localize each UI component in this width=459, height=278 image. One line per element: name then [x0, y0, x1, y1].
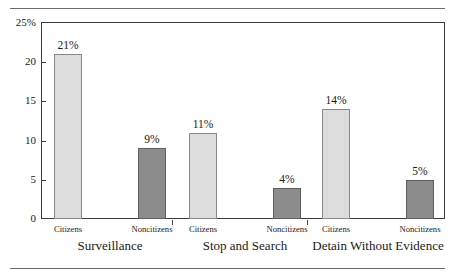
x-sub-label-citizens: Citizens: [163, 224, 243, 234]
y-tick-label: 0: [2, 213, 36, 224]
top-divider-rule: [10, 8, 445, 9]
x-group-separator-tick: [307, 220, 308, 225]
x-group-separator-tick: [172, 220, 173, 225]
y-tick-label: 20: [2, 56, 36, 67]
bar-value-label: 5%: [390, 165, 450, 177]
bar-detain-without-evidence-noncitizens: [406, 180, 434, 219]
bar-surveillance-noncitizens: [138, 148, 166, 219]
bar-stop-and-search-citizens: [189, 133, 217, 219]
bottom-divider-rule: [10, 268, 445, 269]
bar-value-label: 21%: [38, 39, 98, 51]
bar-value-label: 9%: [122, 133, 182, 145]
bar-stop-and-search-noncitizens: [273, 188, 301, 219]
bar-value-label: 11%: [173, 118, 233, 130]
x-sub-label-citizens: Citizens: [28, 224, 108, 234]
bar-surveillance-citizens: [54, 54, 82, 219]
bars-container: [41, 22, 445, 219]
x-sub-label-citizens: Citizens: [296, 224, 376, 234]
x-group-label: Detain Without Evidence: [288, 238, 459, 253]
y-tick-label: 25%: [2, 17, 36, 28]
bar-detain-without-evidence-citizens: [322, 109, 350, 219]
x-sub-label-noncitizens: Noncitizens: [380, 224, 459, 234]
y-tick-label: 5: [2, 174, 36, 185]
bar-chart-figure: 25%20151050 CitizensNoncitizensSurveilla…: [0, 0, 459, 278]
y-tick-label: 10: [2, 135, 36, 146]
bar-value-label: 4%: [257, 173, 317, 185]
y-tick-label: 15: [2, 95, 36, 106]
bar-value-label: 14%: [306, 94, 366, 106]
